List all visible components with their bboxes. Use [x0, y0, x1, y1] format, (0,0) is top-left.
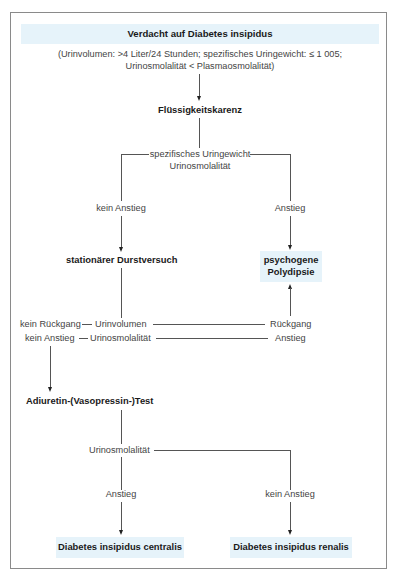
arrow-down-icon — [119, 247, 123, 252]
row2-left: kein Anstieg — [25, 332, 75, 344]
connector-line — [82, 324, 92, 325]
connector-line — [50, 346, 51, 388]
criteria-step1-line-2: Urinosmolalität — [140, 160, 260, 172]
connector-line — [154, 450, 291, 451]
row2-right: Anstieg — [275, 332, 306, 344]
connector-line — [121, 154, 122, 201]
node-psychogene-line-1: psychogene — [255, 254, 327, 266]
criteria-line-2: Urinosmolalität < Plasmaosmolalität) — [21, 60, 379, 72]
diagram-title: Verdacht auf Diabetes insipidus — [21, 28, 379, 40]
final-left-label: Anstieg — [81, 488, 161, 500]
final-right-label: kein Anstieg — [250, 488, 330, 500]
arrow-down-icon — [119, 530, 123, 535]
arrow-down-icon — [197, 96, 201, 101]
connector-line — [121, 502, 122, 531]
connector-line — [250, 154, 291, 155]
criteria-line-1: (Urinvolumen: >4 Liter/24 Stunden; spezi… — [21, 48, 379, 60]
connector-line — [121, 268, 122, 318]
connector-line — [121, 154, 149, 155]
branch-left-label: kein Anstieg — [81, 202, 161, 214]
connector-line — [121, 457, 122, 490]
row1-left: kein Rückgang — [20, 318, 81, 330]
node-adiuretin-test: Adiuretin-(Vasopressin-)Test — [26, 395, 153, 407]
node-psychogene-line-2: Polydipsie — [255, 266, 327, 278]
row1-right: Rückgang — [270, 318, 311, 330]
connector-line — [79, 338, 88, 339]
connector-line — [290, 502, 291, 531]
node-durstversuch: stationärer Durstversuch — [66, 254, 178, 266]
connector-line — [290, 288, 291, 316]
row2-middle: Urinosmolalität — [90, 332, 151, 344]
connector-line — [199, 118, 200, 148]
arrow-down-icon — [288, 245, 292, 250]
connector-line — [121, 410, 122, 444]
arrow-down-icon — [48, 387, 52, 392]
connector-line — [153, 324, 265, 325]
row1-middle: Urinvolumen — [95, 318, 147, 330]
connector-line — [290, 216, 291, 246]
connector-line — [199, 74, 200, 97]
node-urinosmolalitaet: Urinosmolalität — [89, 444, 150, 456]
branch-right-label: Anstieg — [250, 202, 330, 214]
connector-line — [290, 154, 291, 201]
connector-line — [156, 338, 268, 339]
arrow-down-icon — [288, 530, 292, 535]
result-renalis: Diabetes insipidus renalis — [230, 541, 352, 553]
connector-line — [290, 450, 291, 490]
result-centralis: Diabetes insipidus centralis — [56, 541, 184, 553]
criteria-step1-line-1: spezifisches Uringewicht — [140, 148, 260, 160]
connector-line — [121, 216, 122, 248]
node-fluessigkeitskarenz: Flüssigkeitskarenz — [100, 104, 300, 116]
